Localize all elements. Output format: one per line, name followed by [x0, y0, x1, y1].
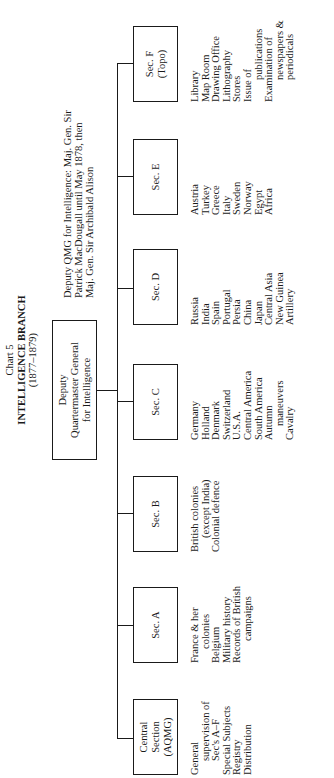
deputy-box-line: Deputy — [57, 342, 69, 438]
duty-item: Distribution — [243, 701, 254, 775]
duty-item: campaigns — [243, 586, 254, 663]
section-d-box: Sec. D — [133, 249, 178, 325]
section-label: (AQMG) — [162, 717, 174, 756]
deputy-box-line: for Intelligence — [81, 342, 93, 438]
section-b-box: Sec. B — [133, 476, 178, 552]
chart-title: INTELLIGENCE BRANCH — [16, 290, 28, 430]
duty-item: Colonial defence — [211, 479, 222, 552]
section-label: Sec. C — [150, 388, 162, 415]
section-a-box: Sec. A — [133, 587, 178, 663]
org-chart: Chart 5 INTELLIGENCE BRANCH (1877–1879) … — [0, 0, 334, 778]
section-e-box: Sec. E — [133, 139, 178, 215]
chart-title-block: Chart 5 INTELLIGENCE BRANCH (1877–1879) — [4, 290, 39, 430]
duty-item: Library — [190, 20, 201, 102]
section-label: Sec. B — [150, 500, 162, 527]
duty-item: China — [243, 272, 254, 325]
duties-central: Generalsupervision ofSec's A–FSpecial Su… — [190, 701, 254, 775]
duty-item: British colonies — [190, 479, 201, 552]
drop-central — [117, 738, 133, 739]
duty-item: Cavalry — [285, 371, 296, 440]
drop-f — [117, 63, 133, 64]
duties-f: LibraryMap RoomDrawing OfficeLithography… — [190, 20, 296, 102]
section-label: Section — [150, 717, 162, 756]
drop-b — [117, 513, 133, 514]
duty-item: Issue of — [243, 20, 254, 102]
duty-item: Africa — [264, 181, 275, 215]
note-line: Maj. Gen. Sir Archibald Alison — [84, 98, 95, 298]
duties-a: France & hercoloniesBelgiumMilitary hist… — [190, 586, 254, 663]
duty-item: Norway — [243, 181, 254, 215]
section-f-box: Sec. F (Topo) — [133, 26, 178, 102]
duty-item: Austria — [190, 181, 201, 215]
chart-label: Chart 5 — [4, 290, 16, 430]
duties-c: GermanyHollandDenmarkSwitzerlandU.S.A.Ce… — [190, 371, 296, 440]
duty-item: Russia — [190, 272, 201, 325]
duty-item: periodicals — [285, 20, 296, 102]
section-label: Central — [138, 717, 150, 756]
note-line: Patrick MacDougall until May 1878, then — [73, 98, 84, 298]
duties-e: AustriaTurkeyGreeceItalySwedenNorwayEgyp… — [190, 181, 275, 215]
section-central-box: Central Section (AQMG) — [133, 699, 178, 775]
duty-item: Artillery — [285, 272, 296, 325]
duties-d: RussiaIndiaSpainPortugalPersiaChinaJapan… — [190, 272, 296, 325]
chart-years: (1877–1879) — [27, 290, 39, 430]
drop-e — [117, 176, 133, 177]
deputy-qmg-note: Deputy QMG for Intelligence: Maj. Gen. S… — [62, 98, 95, 298]
drop-c — [117, 401, 133, 402]
section-label: Sec. F — [144, 50, 156, 78]
duty-item: Germany — [190, 371, 201, 440]
deputy-qmg-box: Deputy Quartermaster General for Intelli… — [52, 320, 97, 460]
duty-item: France & her — [190, 586, 201, 663]
drop-a — [117, 625, 133, 626]
section-label: Sec. E — [150, 164, 162, 191]
deputy-box-line: Quartermaster General — [69, 342, 81, 438]
note-line: Deputy QMG for Intelligence: Maj. Gen. S… — [62, 98, 73, 298]
section-c-box: Sec. C — [133, 364, 178, 440]
section-label: Sec. D — [150, 273, 162, 301]
drop-d — [117, 288, 133, 289]
duties-b: British colonies(except India)Colonial d… — [190, 479, 222, 552]
section-label: (Topo) — [156, 50, 168, 78]
duty-item: Central America — [243, 371, 254, 440]
section-label: Sec. A — [150, 611, 162, 638]
deputy-connector — [97, 390, 117, 391]
duty-item: General — [190, 701, 201, 775]
